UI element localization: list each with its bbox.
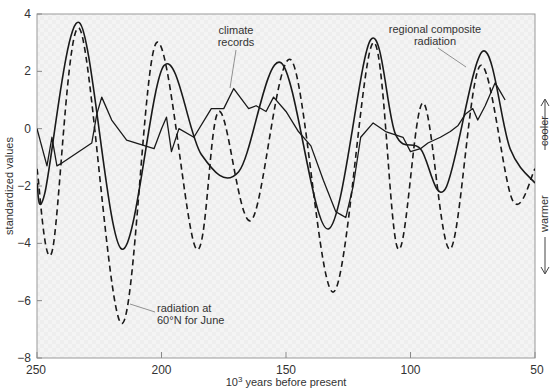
y-tick-label: −4 [17,236,31,250]
svg-text:radiation at: radiation at [157,302,211,314]
svg-text:records: records [218,36,255,48]
climate-chart: 420−2−4−6−8 25020015010050 climate recor… [0,0,554,392]
y-tick-label: 4 [24,7,31,21]
svg-text:climate: climate [219,24,254,36]
y-axis-title: standardized values [3,137,15,235]
x-tick-label: 100 [400,363,420,377]
y-tick-label: 0 [24,122,31,136]
x-axis-title: 103 years before present [226,375,347,388]
y-tick-label: −2 [17,179,31,193]
svg-text:cooler: cooler [538,116,550,146]
svg-text:regional composite: regional composite [389,23,481,35]
x-tick-label: 150 [276,363,296,377]
y-tick-label: −6 [17,294,31,308]
svg-text:warmer: warmer [538,195,550,233]
cooler-indicator: cooler [538,99,550,150]
plot-area [37,14,535,358]
y-tick-label: 2 [24,64,31,78]
x-tick-label: 50 [530,363,544,377]
svg-text:radiation: radiation [414,35,456,47]
svg-text:60°N for June: 60°N for June [157,314,224,326]
x-tick-label: 200 [151,363,171,377]
x-tick-label: 250 [26,363,46,377]
warmer-indicator: warmer [538,195,550,274]
